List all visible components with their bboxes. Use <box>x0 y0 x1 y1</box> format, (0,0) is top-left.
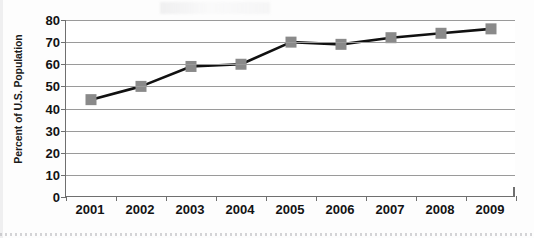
data-point-marker <box>86 94 97 105</box>
y-axis-tick-mark <box>61 109 66 110</box>
x-axis-tick-mark <box>116 196 117 201</box>
gridline <box>66 64 515 65</box>
data-point-marker <box>436 28 447 39</box>
y-axis-tick-mark <box>61 175 66 176</box>
gridline <box>66 131 515 132</box>
y-axis-title: Percent of U.S. Population <box>12 9 24 189</box>
line-chart: Percent of U.S. Population 0102030405060… <box>0 0 534 238</box>
x-axis-tick-mark <box>516 196 517 201</box>
x-axis-tick-mark <box>166 196 167 201</box>
y-axis-tick-mark <box>61 20 66 21</box>
x-axis-tick-mark <box>316 196 317 201</box>
y-axis-tick-label: 30 <box>26 124 60 137</box>
data-point-marker <box>186 61 197 72</box>
data-point-marker <box>486 23 497 34</box>
gridline <box>66 42 515 43</box>
x-axis-tick-mark <box>266 196 267 201</box>
gridline <box>66 86 515 87</box>
scan-artifact-top <box>160 2 270 14</box>
scan-artifact-left-edge <box>0 0 3 238</box>
y-axis-tick-mark <box>61 153 66 154</box>
gridline <box>66 153 515 154</box>
y-axis-tick-label: 50 <box>26 80 60 93</box>
scan-artifact-bottom-dotted-line <box>0 233 534 236</box>
gridline <box>66 20 515 21</box>
x-axis-tick-mark <box>66 196 67 201</box>
x-axis-tick-mark <box>416 196 417 201</box>
gridline <box>66 109 515 110</box>
y-axis-tick-mark <box>61 42 66 43</box>
x-axis-tick-mark <box>216 196 217 201</box>
y-axis-tick-mark <box>61 64 66 65</box>
y-axis-tick-label: 20 <box>26 146 60 159</box>
y-axis-tick-label: 60 <box>26 58 60 71</box>
data-point-marker <box>336 39 347 50</box>
x-axis-tick-label: 2009 <box>460 203 520 217</box>
y-axis-tick-label: 80 <box>26 14 60 27</box>
gridline <box>66 175 515 176</box>
x-axis-tick-labels: 200120022003200420052006200720082009 <box>65 203 515 223</box>
x-axis-tick-mark <box>466 196 467 201</box>
y-axis-tick-mark <box>61 86 66 87</box>
y-axis-tick-label: 0 <box>26 191 60 204</box>
y-axis-tick-labels: 01020304050607080 <box>24 0 60 238</box>
y-axis-tick-label: 70 <box>26 36 60 49</box>
y-axis-tick-label: 40 <box>26 102 60 115</box>
y-axis-tick-mark <box>61 131 66 132</box>
x-axis-tick-mark <box>366 196 367 201</box>
plot-area <box>65 20 515 197</box>
y-axis-tick-label: 10 <box>26 168 60 181</box>
